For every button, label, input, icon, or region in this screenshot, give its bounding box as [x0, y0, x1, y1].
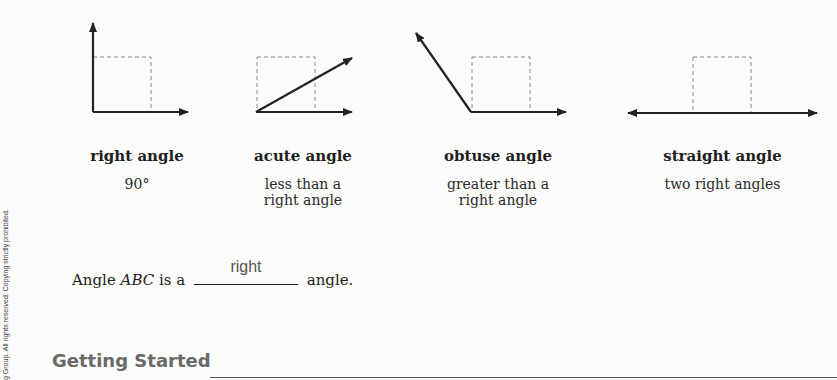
angled-ray: [416, 33, 471, 112]
obtuse-angle-diagram: [416, 33, 566, 112]
right-angle-diagram: [93, 23, 188, 112]
description-line: right angle: [418, 192, 578, 208]
question-middle: is a: [154, 271, 185, 289]
description-line: right angle: [228, 192, 378, 208]
straight-angle-diagram: [628, 57, 817, 113]
section-heading: Getting Started: [52, 350, 211, 371]
obtuse-angle-description: greater than a right angle: [418, 176, 578, 208]
reference-square: [93, 57, 151, 112]
right-angle-description: 90°: [72, 176, 202, 192]
reference-square: [472, 57, 530, 112]
acute-angle-label: acute angle: [238, 147, 368, 165]
angle-name: ABC: [121, 271, 155, 289]
straight-angle-label: straight angle: [640, 147, 805, 165]
question-prefix: Angle: [72, 271, 121, 289]
description-line: 90°: [72, 176, 202, 192]
answer-blank[interactable]: right: [194, 270, 298, 285]
copyright-notice: g Group. All rights reserved. Copying st…: [2, 209, 9, 380]
angle-figures: [0, 0, 837, 140]
description-line: less than a: [228, 176, 378, 192]
description-line: two right angles: [630, 176, 815, 192]
angled-ray: [256, 58, 352, 112]
description-line: greater than a: [418, 176, 578, 192]
straight-angle-description: two right angles: [630, 176, 815, 192]
acute-angle-description: less than a right angle: [228, 176, 378, 208]
reference-square: [693, 57, 751, 113]
question-sentence: Angle ABC is a right angle.: [72, 270, 353, 289]
right-angle-label: right angle: [72, 147, 202, 165]
question-suffix: angle.: [307, 271, 354, 289]
answer-text: right: [194, 258, 298, 276]
obtuse-angle-label: obtuse angle: [428, 147, 568, 165]
section-divider: [210, 377, 837, 378]
acute-angle-diagram: [256, 57, 352, 112]
